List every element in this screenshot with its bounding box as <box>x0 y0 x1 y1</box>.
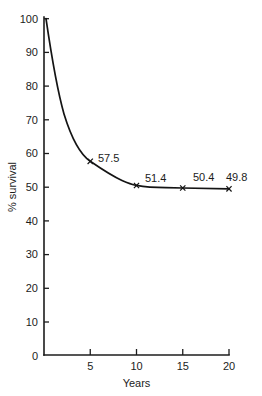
y-tick-label-40: 40 <box>26 215 38 227</box>
survival-curve-path <box>46 19 229 189</box>
data-marker-year-5 <box>88 159 93 164</box>
y-tick-label-70: 70 <box>26 114 38 126</box>
point-label-year-10: 51.4 <box>145 172 166 184</box>
point-label-year-5: 57.5 <box>98 152 119 164</box>
x-axis-title: Years <box>123 377 151 389</box>
y-tick-label-10: 10 <box>26 316 38 328</box>
x-tick-label-20: 20 <box>223 360 235 372</box>
x-tick-label-15: 15 <box>177 360 189 372</box>
y-tick-label-50: 50 <box>26 181 38 193</box>
y-tick-label-100: 100 <box>20 13 38 25</box>
point-label-year-20: 49.8 <box>226 171 247 183</box>
y-tick-label-80: 80 <box>26 80 38 92</box>
y-tick-label-90: 90 <box>26 46 38 58</box>
y-tick-label-60: 60 <box>26 147 38 159</box>
chart-canvas: 100 90 80 70 60 50 40 30 20 10 0 5 10 15… <box>0 0 262 396</box>
y-tick-label-0: 0 <box>32 350 38 362</box>
point-label-year-15: 50.4 <box>193 171 214 183</box>
y-tick-labels: 100 90 80 70 60 50 40 30 20 10 0 <box>20 13 38 362</box>
y-tick-label-30: 30 <box>26 248 38 260</box>
y-tick-label-20: 20 <box>26 282 38 294</box>
y-axis-title: % survival <box>6 162 18 212</box>
x-tick-marks <box>90 349 229 355</box>
survival-curve-chart: 100 90 80 70 60 50 40 30 20 10 0 5 10 15… <box>0 0 262 396</box>
x-tick-label-5: 5 <box>87 360 93 372</box>
x-tick-labels: 5 10 15 20 <box>87 360 235 372</box>
x-tick-label-10: 10 <box>130 360 142 372</box>
